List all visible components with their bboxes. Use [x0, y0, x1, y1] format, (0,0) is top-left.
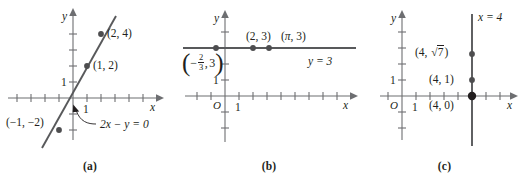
point-label-1-2: (1, 2) [93, 60, 118, 72]
point-pi-3 [266, 45, 272, 51]
equation-label-a: 2x − y = 0 [100, 119, 149, 131]
point-label-pi-3-rest: , 3) [291, 30, 306, 42]
x-axis-label-a: x [150, 101, 155, 113]
panel-caption-c: (c) [358, 160, 531, 172]
fraction-numerator: 2 [198, 53, 204, 62]
point-2-4 [98, 31, 104, 37]
point-label-2-3: (2, 3) [246, 31, 271, 43]
fraction-two-thirds: 2 3 [198, 53, 204, 72]
y-axis-a [69, 8, 77, 140]
figure-three-line-graphs: x y 1 1 (2, 4) (1, 2) (−1, −2) 2x − y = … [0, 0, 531, 175]
x-tick-label-1-b: 1 [235, 101, 241, 113]
y-axis-label-b: y [214, 12, 219, 24]
x-tick-label-1-a: 1 [83, 103, 89, 115]
minus-sign: − [190, 57, 197, 69]
point-label-neg-two-thirds-3: ( − 2 3 , 3 ) [182, 53, 224, 73]
point-label-4-sqrt7-prefix: (4, [415, 46, 430, 58]
fraction-denominator: 3 [198, 62, 204, 72]
point-2-3 [250, 45, 256, 51]
y-tick-label-1-c: 1 [390, 74, 396, 86]
x-tick-label-1-c: 1 [412, 101, 418, 113]
point-label-2-4: (2, 4) [107, 28, 132, 40]
radicand: 7 [437, 45, 445, 58]
origin-label-b: O [213, 99, 221, 111]
y-axis-label-a: y [62, 10, 67, 22]
point-label-4-0: (4, 0) [429, 100, 454, 112]
y-axis-c [398, 10, 406, 140]
y-axis-b [221, 10, 229, 142]
x-axis-label-b: x [343, 99, 348, 111]
point-4-0 [468, 92, 476, 100]
point-label-4-sqrt7-suffix: ) [444, 46, 448, 58]
point-label-neg1-neg2: (−1, −2) [6, 117, 44, 129]
equation-label-c: x = 4 [478, 12, 502, 24]
panel-a: x y 1 1 (2, 4) (1, 2) (−1, −2) 2x − y = … [0, 0, 180, 175]
panel-c: x y O 1 1 (4, √7) (4, 1) (4, 0) x = 4 (c… [358, 0, 531, 175]
y-tick-label-1-a: 1 [61, 76, 67, 88]
panel-b: x y O 1 1 (2, 3) (π, 3) ( − 2 3 , 3 ) y … [180, 0, 358, 175]
y-axis-label-c: y [391, 12, 396, 24]
x-axis-label-c: x [507, 99, 512, 111]
equation-label-b: y = 3 [308, 56, 332, 68]
point-label-4-1: (4, 1) [429, 74, 454, 86]
point-1-2 [84, 63, 90, 69]
paren-close: ) [215, 53, 223, 73]
panel-caption-a: (a) [0, 160, 180, 172]
point-label-pi-3: (π, 3) [281, 31, 306, 43]
sqrt-icon: √7 [430, 47, 444, 59]
paren-open: ( [182, 53, 190, 73]
point-label-4-sqrt7: (4, √7) [415, 47, 448, 59]
point-neg1-neg2 [56, 127, 62, 133]
comma-separator: , [205, 57, 208, 69]
point-4-sqrt7 [469, 51, 475, 57]
origin-label-c: O [390, 99, 398, 111]
point-4-1 [469, 77, 475, 83]
panel-caption-b: (b) [180, 160, 358, 172]
panel-b-plot [180, 0, 358, 150]
